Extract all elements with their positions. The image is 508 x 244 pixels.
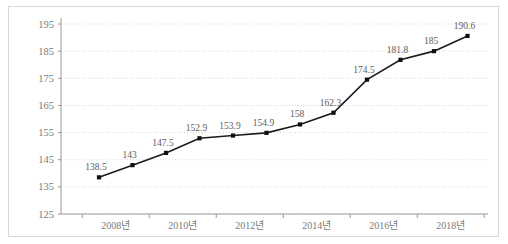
data-point-marker: [164, 151, 168, 155]
data-point-label: 143: [122, 150, 137, 160]
data-point-marker: [231, 133, 235, 137]
data-point-label: 138.5: [85, 162, 107, 172]
series-line-group: [99, 36, 468, 177]
x-axis-tick-label: 2014년: [302, 220, 331, 231]
data-point-marker: [331, 111, 335, 115]
x-axis-tick-label: 2008년: [101, 220, 130, 231]
data-point-label: 152.9: [186, 123, 208, 133]
y-axis-tick-label: 145: [38, 154, 54, 165]
x-tickmarks-group: [82, 214, 484, 218]
data-point-marker: [130, 163, 134, 167]
data-point-label: 185: [424, 36, 439, 46]
data-point-label: 147.5: [152, 138, 174, 148]
data-point-label: 174.5: [353, 65, 375, 75]
data-point-label: 162.3: [320, 98, 342, 108]
y-axis-tick-label: 125: [38, 209, 54, 220]
y-axis-tick-label: 155: [38, 127, 54, 138]
data-point-marker: [264, 131, 268, 135]
data-labels-group: 138.5143147.5152.9153.9154.9158162.3174.…: [85, 21, 475, 172]
data-point-marker: [298, 122, 302, 126]
series-line: [99, 36, 468, 177]
data-point-label: 181.8: [387, 45, 409, 55]
y-axis-tick-label: 135: [38, 181, 54, 192]
data-point-marker: [365, 78, 369, 82]
data-point-marker: [398, 58, 402, 62]
y-axis-tick-label: 185: [38, 46, 54, 57]
y-axis-tick-label: 195: [38, 19, 54, 30]
x-axis-tick-label: 2016년: [369, 220, 398, 231]
y-axis-labels-group: 125135145155165175185195: [38, 19, 54, 220]
y-axis-tick-label: 165: [38, 100, 54, 111]
data-point-label: 190.6: [454, 21, 476, 31]
line-chart-plot: 125135145155165175185195 2008년2010년2012년…: [9, 7, 500, 238]
y-axis-tick-label: 175: [38, 73, 54, 84]
x-axis-tick-label: 2012년: [235, 220, 264, 231]
x-axis-labels-group: 2008년2010년2012년2014년2016년2018년: [101, 220, 465, 231]
data-point-label: 154.9: [253, 118, 275, 128]
x-axis-tick-label: 2018년: [436, 220, 465, 231]
data-point-marker: [197, 136, 201, 140]
data-point-marker: [432, 49, 436, 53]
data-point-label: 158: [290, 109, 305, 119]
data-point-marker: [465, 34, 469, 38]
axes-group: [61, 18, 488, 214]
x-axis-tick-label: 2010년: [168, 220, 197, 231]
chart-frame: 125135145155165175185195 2008년2010년2012년…: [8, 6, 499, 237]
data-point-marker: [97, 175, 101, 179]
data-point-label: 153.9: [219, 121, 241, 131]
